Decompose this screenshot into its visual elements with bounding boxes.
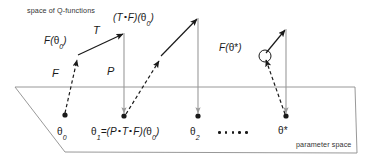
node-dot-theta1 (121, 113, 126, 118)
node-dot-theta2 (195, 113, 200, 118)
space-of-q-functions-label: space of Q-functions (27, 7, 95, 14)
edge-T-theta1 (161, 19, 197, 56)
label-F-operator: F (52, 68, 59, 79)
edge-T-theta-star (266, 30, 285, 53)
label-theta-star: θ* (278, 126, 288, 136)
ellipsis-dots (218, 131, 248, 134)
label-theta2: θ2 (190, 127, 200, 139)
diagram-canvas: space of Q-functions parameter space F(θ… (0, 0, 368, 164)
node-dot-theta0 (62, 112, 67, 117)
label-theta0: θ0 (57, 127, 67, 139)
edge-T-theta0 (78, 34, 123, 55)
label-TF-theta0: (T∘F)(θ0) (113, 13, 154, 25)
label-F-theta-star: F(θ*) (219, 43, 242, 53)
label-theta1-equation: θ1=(P∘T∘F)(θ0) (91, 127, 159, 139)
parameter-space-label: parameter space (296, 141, 351, 148)
fixed-point-highlight-circle (259, 50, 271, 62)
label-T-operator: T (93, 25, 100, 36)
label-P-operator: P (107, 66, 114, 77)
node-dot-theta-star (283, 113, 288, 118)
label-F-theta0: F(θ0) (44, 36, 67, 48)
